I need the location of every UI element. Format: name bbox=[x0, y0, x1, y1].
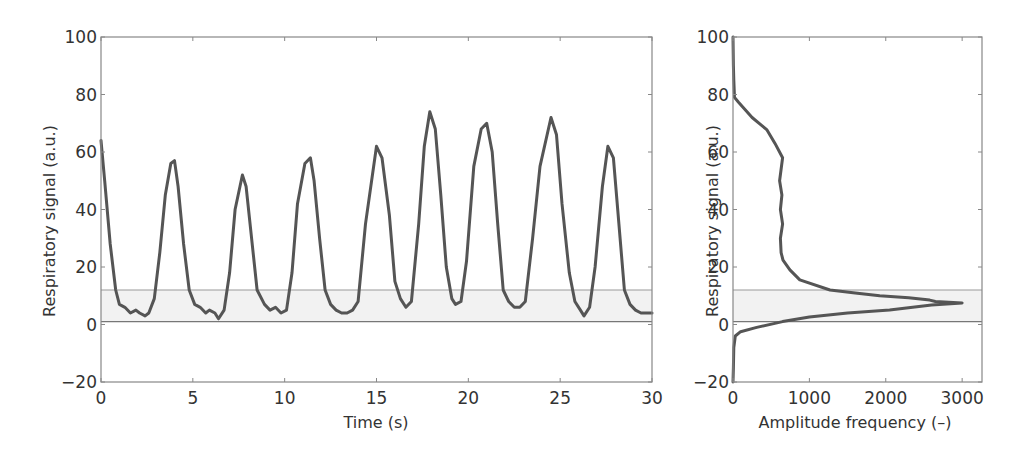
x-tick-label: 25 bbox=[549, 388, 571, 408]
y-tick-label: 100 bbox=[697, 27, 729, 47]
x-axis-label: Time (s) bbox=[342, 413, 408, 432]
y-tick-labels: −20020406080100 bbox=[61, 27, 97, 392]
x-axis-label: Amplitude frequency (–) bbox=[759, 413, 952, 432]
y-tick-label: −20 bbox=[693, 372, 729, 392]
y-axis-label: Respiratory signal (a.u.) bbox=[40, 125, 59, 317]
x-tick-label: 20 bbox=[458, 388, 480, 408]
tick-marks bbox=[101, 37, 652, 382]
x-tick-labels: 051015202530 bbox=[96, 388, 663, 408]
plot-frame bbox=[733, 37, 982, 382]
y-tick-label: 80 bbox=[75, 85, 97, 105]
y-tick-label: −20 bbox=[61, 372, 97, 392]
amplitude-histogram-line bbox=[733, 37, 962, 382]
x-tick-label: 0 bbox=[96, 388, 107, 408]
x-tick-label: 1000 bbox=[788, 388, 831, 408]
shaded-band bbox=[733, 290, 982, 322]
respiratory-signal-line bbox=[101, 112, 652, 319]
y-tick-label: 20 bbox=[75, 257, 97, 277]
y-tick-label: 0 bbox=[86, 315, 97, 335]
y-tick-label: 100 bbox=[65, 27, 97, 47]
histogram-plot: 0100020003000 −20020406080100 Amplitude … bbox=[693, 27, 984, 432]
x-tick-label: 10 bbox=[274, 388, 296, 408]
time-series-plot: 051015202530 −20020406080100 Time (s) Re… bbox=[40, 27, 663, 432]
x-tick-label: 5 bbox=[187, 388, 198, 408]
y-tick-label: 60 bbox=[75, 142, 97, 162]
x-tick-label: 15 bbox=[366, 388, 388, 408]
tick-marks bbox=[733, 37, 982, 382]
y-axis-label: Respiratory signal (a.u.) bbox=[703, 125, 722, 317]
x-tick-label: 2000 bbox=[864, 388, 907, 408]
x-tick-label: 0 bbox=[728, 388, 739, 408]
shaded-band bbox=[101, 290, 652, 322]
x-tick-labels: 0100020003000 bbox=[728, 388, 984, 408]
x-tick-label: 30 bbox=[641, 388, 663, 408]
y-tick-label: 80 bbox=[707, 85, 729, 105]
figure: 051015202530 −20020406080100 Time (s) Re… bbox=[0, 0, 1024, 457]
y-tick-label: 40 bbox=[75, 200, 97, 220]
x-tick-label: 3000 bbox=[941, 388, 984, 408]
plot-frame bbox=[101, 37, 652, 382]
